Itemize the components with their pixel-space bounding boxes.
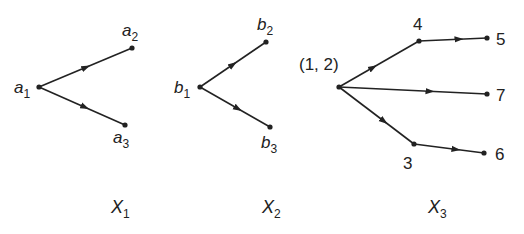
node-3 bbox=[411, 141, 416, 146]
graph-x2: b1 b2 b3 bbox=[174, 15, 277, 156]
node-4 bbox=[416, 38, 421, 43]
edge-12-4 bbox=[339, 41, 419, 87]
edge-a1-a2 bbox=[39, 48, 132, 87]
edge-b1-b2 bbox=[200, 42, 266, 87]
node-a3 bbox=[122, 122, 127, 127]
caption-x1: X1 bbox=[110, 197, 130, 221]
edge-4-5 bbox=[419, 38, 487, 41]
label-6: 6 bbox=[495, 145, 504, 164]
caption-x3: X3 bbox=[427, 197, 447, 221]
label-1-2: (1, 2) bbox=[299, 55, 339, 74]
caption-x2: X2 bbox=[261, 197, 281, 221]
node-1-2 bbox=[336, 84, 341, 89]
label-4: 4 bbox=[413, 15, 422, 34]
edge-3-6 bbox=[414, 144, 484, 153]
label-a1: a1 bbox=[14, 78, 30, 101]
node-b3 bbox=[267, 124, 272, 129]
edge-a1-a3 bbox=[39, 87, 125, 125]
edge-12-3 bbox=[339, 87, 414, 144]
node-6 bbox=[481, 150, 486, 155]
label-7: 7 bbox=[496, 86, 505, 105]
label-3: 3 bbox=[403, 154, 412, 173]
label-b2: b2 bbox=[257, 15, 273, 38]
node-a1 bbox=[36, 84, 41, 89]
label-b1: b1 bbox=[174, 78, 190, 101]
node-5 bbox=[484, 35, 489, 40]
graph-x1: a1 a2 a3 bbox=[14, 21, 138, 151]
graph-x3: (1, 2) 4 5 7 3 6 bbox=[299, 15, 505, 173]
node-a2 bbox=[129, 45, 134, 50]
diagram-canvas: a1 a2 a3 b1 b2 b3 bbox=[0, 0, 524, 234]
label-b3: b3 bbox=[261, 133, 277, 156]
label-a3: a3 bbox=[113, 128, 129, 151]
edge-12-7 bbox=[339, 87, 487, 94]
edge-b1-b3 bbox=[200, 87, 270, 127]
graph-diagram: a1 a2 a3 b1 b2 b3 bbox=[0, 0, 524, 234]
node-7 bbox=[484, 91, 489, 96]
label-5: 5 bbox=[496, 30, 505, 49]
label-a2: a2 bbox=[122, 21, 138, 44]
node-b2 bbox=[263, 39, 268, 44]
node-b1 bbox=[197, 84, 202, 89]
